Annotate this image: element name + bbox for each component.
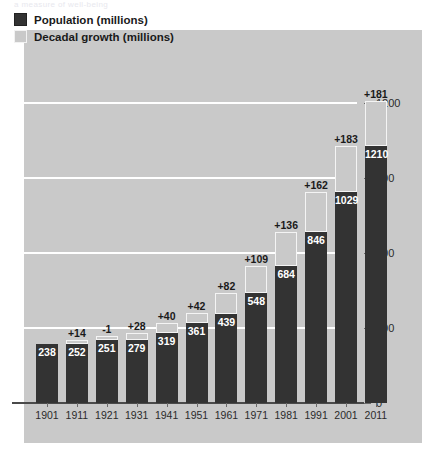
x-axis-label-1951: 1951 (180, 409, 214, 421)
population-value-label-1991: 846 (305, 234, 327, 246)
population-value-label-1941: 319 (156, 335, 178, 347)
legend-item-population: Population (millions) (14, 11, 174, 28)
growth-value-label-1991: +162 (301, 179, 331, 191)
x-axis-tick-1991 (316, 403, 317, 407)
x-axis-label-1971: 1971 (239, 409, 273, 421)
x-axis-label-1911: 1911 (60, 409, 94, 421)
bar-group-2011[interactable]: +1811210 (365, 43, 387, 403)
x-axis-label-2001: 2001 (329, 409, 363, 421)
plot-area: 030060090012002381901+142521911-12511921… (12, 43, 357, 403)
bar-group-1911[interactable]: +14252 (66, 43, 88, 403)
growth-bar-1931[interactable] (126, 333, 148, 340)
x-axis-tick-2011 (376, 403, 377, 407)
population-value-label-2001: 1029 (335, 194, 357, 206)
population-value-label-1911: 252 (66, 346, 88, 358)
growth-value-label-2001: +183 (331, 133, 361, 145)
population-value-label-1951: 361 (186, 325, 208, 337)
legend-swatch-growth-icon (14, 30, 27, 43)
bar-group-1981[interactable]: +136684 (275, 43, 297, 403)
growth-bar-1961[interactable] (215, 293, 237, 314)
population-value-label-1921: 251 (96, 342, 118, 354)
x-axis-tick-1971 (256, 403, 257, 407)
population-bar-1971[interactable] (245, 293, 267, 403)
growth-bar-1951[interactable] (186, 313, 208, 324)
growth-value-label-1911: +14 (62, 327, 92, 339)
growth-bar-1991[interactable] (305, 192, 327, 233)
bar-group-1901[interactable]: 238 (36, 43, 58, 403)
y-axis-tick-0 (364, 403, 371, 404)
bar-group-1931[interactable]: +28279 (126, 43, 148, 403)
growth-value-label-1921: -1 (92, 323, 122, 335)
growth-value-label-1941: +40 (152, 310, 182, 322)
bar-group-1921[interactable]: -1251 (96, 43, 118, 403)
x-axis-label-1931: 1931 (120, 409, 154, 421)
growth-value-label-1931: +28 (122, 320, 152, 332)
population-value-label-2011: 1210 (365, 148, 387, 160)
population-bar-2001[interactable] (335, 192, 357, 404)
legend-label-decadal-growth: Decadal growth (millions) (34, 31, 174, 43)
x-axis-label-1991: 1991 (299, 409, 333, 421)
x-axis-label-1921: 1921 (90, 409, 124, 421)
growth-bar-1981[interactable] (275, 232, 297, 266)
population-value-label-1931: 279 (126, 342, 148, 354)
x-axis-label-1961: 1961 (209, 409, 243, 421)
x-axis-label-1901: 1901 (30, 409, 64, 421)
growth-value-label-2011: +181 (361, 88, 391, 100)
bar-group-2001[interactable]: +1831029 (335, 43, 357, 403)
population-bar-1991[interactable] (305, 232, 327, 403)
x-axis-tick-1951 (197, 403, 198, 407)
growth-value-label-1961: +82 (211, 280, 241, 292)
x-axis-tick-1901 (47, 403, 48, 407)
growth-bar-2011[interactable] (365, 101, 387, 146)
x-axis-tick-2001 (346, 403, 347, 407)
growth-bar-1921[interactable] (96, 336, 118, 340)
population-value-label-1971: 548 (245, 295, 267, 307)
x-axis-label-1981: 1981 (269, 409, 303, 421)
growth-value-label-1981: +136 (271, 219, 301, 231)
growth-value-label-1971: +109 (241, 253, 271, 265)
x-axis-tick-1941 (167, 403, 168, 407)
legend-swatch-population-icon (14, 13, 27, 26)
bar-group-1951[interactable]: +42361 (186, 43, 208, 403)
x-axis-label-2011: 2011 (359, 409, 393, 421)
x-axis-tick-1921 (107, 403, 108, 407)
population-value-label-1981: 684 (275, 268, 297, 280)
bar-group-1941[interactable]: +40319 (156, 43, 178, 403)
bar-group-1991[interactable]: +162846 (305, 43, 327, 403)
population-value-label-1901: 238 (36, 346, 58, 358)
legend-label-population: Population (millions) (34, 14, 148, 26)
growth-bar-1911[interactable] (66, 340, 88, 344)
population-bar-2011[interactable] (365, 146, 387, 403)
growth-bar-1971[interactable] (245, 266, 267, 293)
x-axis-tick-1931 (137, 403, 138, 407)
growth-bar-1941[interactable] (156, 323, 178, 333)
bar-group-1971[interactable]: +109548 (245, 43, 267, 403)
population-bar-1981[interactable] (275, 266, 297, 403)
bar-group-1961[interactable]: +82439 (215, 43, 237, 403)
growth-bar-2001[interactable] (335, 146, 357, 192)
x-axis-tick-1981 (286, 403, 287, 407)
chart-legend: Population (millions) Decadal growth (mi… (14, 11, 174, 45)
x-axis-tick-1961 (226, 403, 227, 407)
population-value-label-1961: 439 (215, 316, 237, 328)
x-axis-label-1941: 1941 (150, 409, 184, 421)
cut-off-heading-text: a measure of well-being (14, 0, 314, 9)
growth-value-label-1951: +42 (182, 300, 212, 312)
x-axis-tick-1911 (77, 403, 78, 407)
